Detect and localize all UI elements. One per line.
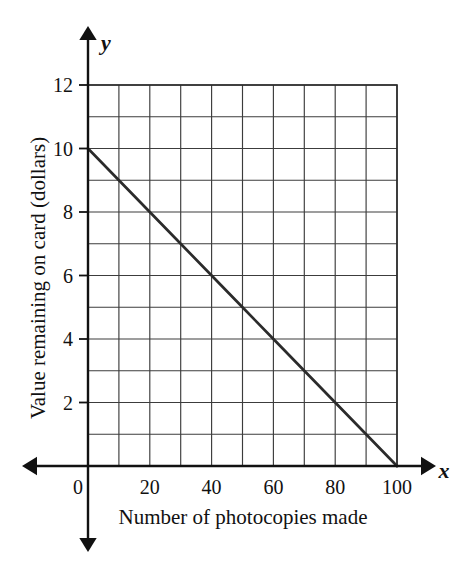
x-axis-tick-label: 80: [325, 476, 345, 498]
x-axis-tick-label: 60: [263, 476, 283, 498]
origin-label: 0: [73, 476, 83, 498]
y-axis-caption: Value remaining on card (dollars): [26, 137, 50, 419]
y-axis-tick-label: 10: [53, 138, 73, 160]
y-axis-tick-labels: 24681012: [53, 74, 73, 414]
graph-figure: 24681012 20406080100 0 y x Number of pho…: [0, 0, 472, 561]
x-axis-tick-label: 20: [140, 476, 160, 498]
coordinate-plane-svg: 24681012 20406080100 0 y x Number of pho…: [0, 0, 472, 561]
x-axis-tick-label: 40: [202, 476, 222, 498]
y-axis-tick-label: 4: [63, 328, 73, 350]
y-axis-tick-label: 2: [63, 392, 73, 414]
y-axis-letter-label: y: [98, 30, 111, 55]
x-axis-letter-label: x: [438, 458, 450, 483]
y-axis-up-arrow-icon: [79, 26, 96, 40]
y-axis-tick-marks: [79, 85, 88, 403]
y-axis-tick-label: 8: [63, 201, 73, 223]
y-axis-tick-label: 12: [53, 74, 73, 96]
y-axis-tick-label: 6: [63, 265, 73, 287]
x-axis-tick-labels: 20406080100: [140, 476, 412, 498]
x-axis-tick-label: 100: [382, 476, 412, 498]
x-axis-caption: Number of photocopies made: [118, 505, 367, 529]
y-axis-down-arrow-icon: [79, 538, 96, 552]
x-axis-left-arrow-icon: [22, 457, 37, 476]
x-axis-right-arrow-icon: [421, 457, 436, 476]
